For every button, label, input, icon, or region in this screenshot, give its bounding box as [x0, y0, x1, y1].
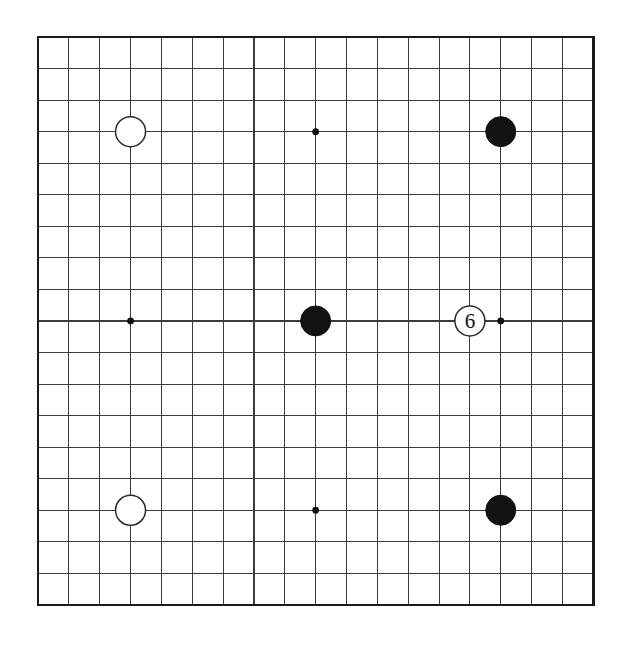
black-stone[interactable]	[486, 117, 516, 147]
star-point-dot	[127, 318, 134, 325]
stone-move-number: 6	[465, 309, 476, 333]
white-stone[interactable]	[116, 117, 146, 147]
white-stone[interactable]	[116, 495, 146, 525]
star-point-dot	[312, 507, 319, 514]
stone-disc[interactable]	[116, 495, 146, 525]
star-point-dot	[497, 318, 504, 325]
stone-disc[interactable]	[301, 306, 331, 336]
black-stone[interactable]	[486, 495, 516, 525]
black-stone[interactable]	[301, 306, 331, 336]
go-board-svg: 6	[0, 0, 628, 646]
stone-disc[interactable]	[486, 117, 516, 147]
white-stone[interactable]: 6	[455, 306, 485, 336]
star-point-dot	[312, 128, 319, 135]
stone-disc[interactable]	[116, 117, 146, 147]
stone-disc[interactable]	[486, 495, 516, 525]
go-board-diagram: 6	[0, 0, 628, 646]
